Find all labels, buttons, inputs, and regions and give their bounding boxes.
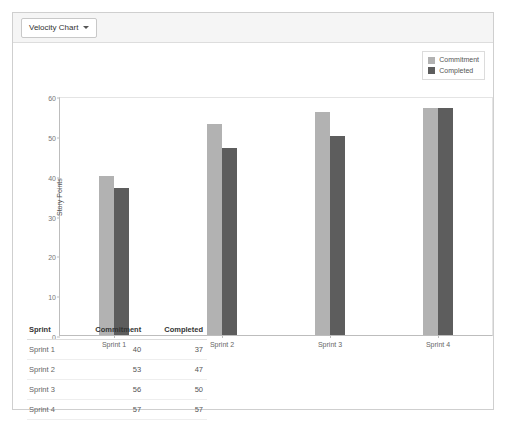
chart-legend: Commitment Completed (422, 51, 485, 80)
table-cell: Sprint 3 (27, 380, 73, 400)
bar-commitment[interactable] (315, 112, 330, 335)
y-axis-tick-label: 30 (48, 214, 56, 221)
x-axis-tick-mark (438, 335, 439, 338)
bar-completed[interactable] (222, 148, 237, 335)
table-row: Sprint 25347 (27, 360, 207, 380)
bar-group: Sprint 2 (207, 98, 237, 335)
bar-group: Sprint 3 (315, 98, 345, 335)
table-body: Sprint 14037Sprint 25347Sprint 35650Spri… (27, 340, 207, 420)
bar-commitment[interactable] (423, 108, 438, 335)
bar-completed[interactable] (438, 108, 453, 335)
table-header-commitment: Commitment (73, 321, 145, 340)
plot-area: Story Points 0102030405060 Sprint 1Sprin… (59, 97, 493, 336)
chart-area: Story Points 0102030405060 Sprint 1Sprin… (13, 43, 493, 333)
legend-swatch-completed (428, 67, 435, 74)
table-cell: Sprint 1 (27, 340, 73, 360)
y-axis-tick-label: 20 (48, 254, 56, 261)
table-cell: 50 (145, 380, 207, 400)
bar-completed[interactable] (114, 188, 129, 335)
x-axis-tick-mark (330, 335, 331, 338)
table-cell: 37 (145, 340, 207, 360)
bar-group: Sprint 4 (423, 98, 453, 335)
y-axis-tick-label: 10 (48, 294, 56, 301)
velocity-chart-card: Velocity Chart Story Points 010203040506… (12, 12, 494, 410)
table-row: Sprint 14037 (27, 340, 207, 360)
y-axis-tick-label: 50 (48, 134, 56, 141)
chart-selector-label: Velocity Chart (29, 24, 78, 32)
velocity-table: Sprint Commitment Completed Sprint 14037… (27, 321, 207, 420)
y-axis-tick-label: 40 (48, 174, 56, 181)
bar-commitment[interactable] (207, 124, 222, 335)
x-axis-tick-label: Sprint 2 (210, 341, 234, 348)
velocity-table-wrapper: Sprint Commitment Completed Sprint 14037… (27, 321, 207, 420)
bar-completed[interactable] (330, 136, 345, 335)
table-cell: Sprint 2 (27, 360, 73, 380)
table-cell: 47 (145, 360, 207, 380)
x-axis-tick-mark (222, 335, 223, 338)
x-axis-tick-label: Sprint 4 (426, 341, 450, 348)
x-axis-tick-label: Sprint 3 (318, 341, 342, 348)
bar-group: Sprint 1 (99, 98, 129, 335)
table-row: Sprint 35650 (27, 380, 207, 400)
legend-label-completed: Completed (439, 66, 473, 77)
card-header: Velocity Chart (13, 13, 493, 43)
table-cell: 40 (73, 340, 145, 360)
y-axis-tick-label: 60 (48, 95, 56, 102)
table-cell: 56 (73, 380, 145, 400)
table-cell: Sprint 4 (27, 400, 73, 420)
chevron-down-icon (83, 26, 89, 29)
legend-item-commitment: Commitment (428, 55, 479, 66)
table-header-completed: Completed (145, 321, 207, 340)
chart-selector-dropdown[interactable]: Velocity Chart (21, 18, 97, 38)
table-cell: 57 (145, 400, 207, 420)
table-row: Sprint 45757 (27, 400, 207, 420)
legend-label-commitment: Commitment (439, 55, 479, 66)
bar-groups: Sprint 1Sprint 2Sprint 3Sprint 4 (60, 98, 492, 335)
legend-item-completed: Completed (428, 66, 479, 77)
table-cell: 57 (73, 400, 145, 420)
legend-swatch-commitment (428, 57, 435, 64)
table-header-sprint: Sprint (27, 321, 73, 340)
bar-commitment[interactable] (99, 176, 114, 335)
table-cell: 53 (73, 360, 145, 380)
table-header-row: Sprint Commitment Completed (27, 321, 207, 340)
